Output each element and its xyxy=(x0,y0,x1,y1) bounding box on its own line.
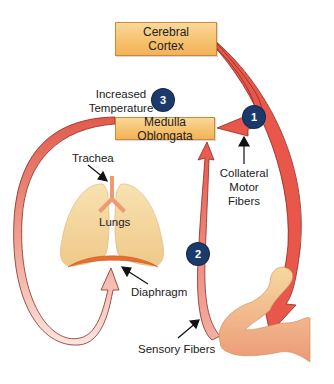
trachea-label: Trachea xyxy=(72,151,114,165)
sensory-fibers-label: Sensory Fibers xyxy=(138,342,215,356)
arm-illustration xyxy=(219,267,310,362)
step-badge-3: 3 xyxy=(152,89,174,111)
medulla-oblongata-box: Medulla Oblongata xyxy=(115,117,215,140)
diagram-canvas xyxy=(0,0,334,384)
lungs-label: Lungs xyxy=(99,215,130,229)
step-badge-2: 2 xyxy=(187,243,209,265)
increased-temperature-label: Increased Temperature xyxy=(86,87,156,115)
cerebral-cortex-label: Cerebral Cortex xyxy=(136,25,196,53)
collateral-motor-fibers-label: Collateral Motor Fibers xyxy=(217,166,271,208)
cerebral-cortex-box: Cerebral Cortex xyxy=(115,22,217,56)
step-badge-1: 1 xyxy=(243,106,265,128)
diaphragm-label: Diaphragm xyxy=(131,285,187,299)
medulla-oblongata-label: Medulla Oblongata xyxy=(116,115,214,143)
